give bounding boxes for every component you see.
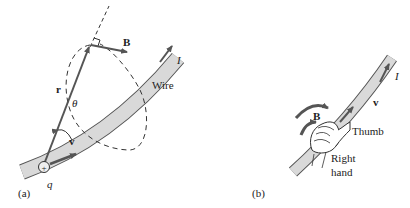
label-right: Right: [331, 152, 355, 164]
label-b-panel-b: B: [313, 110, 321, 122]
b-vector-arrow: [91, 45, 127, 52]
label-v-panel-b: v: [373, 96, 379, 108]
caption-b: (b): [252, 187, 265, 200]
label-r: r: [56, 83, 61, 95]
label-b: B: [123, 36, 131, 48]
charge-sign: +: [41, 163, 46, 173]
panel-b: B I v Thumb Right hand (b): [252, 58, 400, 200]
label-current-i-panel-b: I: [394, 70, 400, 82]
label-theta: θ: [72, 97, 78, 109]
wire-a: [22, 58, 178, 172]
panel-a: + B I Wire r θ v q (a): [18, 6, 182, 200]
label-v: v: [69, 135, 75, 147]
label-thumb: Thumb: [352, 125, 384, 137]
label-hand: hand: [331, 166, 353, 178]
biot-savart-diagram: + B I Wire r θ v q (a) B I v: [0, 0, 410, 208]
figure: + B I Wire r θ v q (a) B I v: [0, 0, 410, 208]
caption-a: (a): [18, 187, 31, 200]
label-wire: Wire: [152, 79, 174, 91]
label-q: q: [47, 178, 53, 190]
curl-arrow-upper-icon: [296, 106, 328, 118]
